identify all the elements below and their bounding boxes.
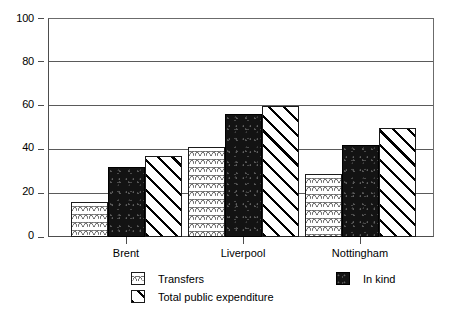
y-tick-mark-60 [38, 105, 44, 106]
y-tick-mark-80 [38, 61, 44, 62]
y-tick-label-100: 100 [16, 13, 34, 24]
y-axis: 100 80 60 40 20 0 [0, 0, 48, 327]
bar-liverpool-total-public-expenditure [262, 106, 299, 237]
x-label-nottingham: Nottingham [332, 247, 388, 259]
legend-label-in-kind: In kind [363, 273, 395, 285]
y-tick-mark-100 [38, 18, 44, 19]
legend-label-total-public-expenditure: Total public expenditure [158, 291, 274, 303]
bar-liverpool-transfers [188, 147, 225, 237]
bar-nottingham-transfers [305, 174, 342, 238]
x-axis: Brent Liverpool Nottingham [48, 237, 434, 267]
x-tick-mark-brent [126, 237, 127, 244]
legend-item-total-public-expenditure: Total public expenditure [131, 290, 274, 303]
y-tick-label-80: 80 [22, 56, 34, 67]
bar-nottingham-total-public-expenditure [379, 128, 416, 238]
bar-group-nottingham [305, 18, 415, 237]
fish-scale-swatch-icon [131, 272, 145, 285]
y-tick-label-40: 40 [22, 142, 34, 153]
x-label-brent: Brent [113, 247, 139, 259]
y-tick-mark-0 [38, 237, 44, 238]
bar-group-brent [71, 18, 181, 237]
diagonal-hatch-swatch-icon [131, 290, 145, 303]
bar-brent-in-kind [108, 167, 145, 237]
x-label-liverpool: Liverpool [221, 247, 266, 259]
solid-black-swatch-icon [336, 272, 350, 285]
x-tick-mark-liverpool [243, 237, 244, 244]
bar-nottingham-in-kind [342, 145, 379, 237]
chart-legend: Transfers In kind Total public expenditu… [131, 272, 431, 312]
bar-brent-total-public-expenditure [145, 156, 182, 237]
y-tick-label-60: 60 [22, 99, 34, 110]
x-tick-mark-nottingham [360, 237, 361, 244]
bar-brent-transfers [71, 202, 108, 237]
bars-layer [48, 18, 434, 237]
y-tick-mark-40 [38, 149, 44, 150]
legend-item-transfers: Transfers [131, 272, 204, 285]
y-tick-label-20: 20 [22, 186, 34, 197]
y-tick-label-0: 0 [28, 230, 34, 241]
legend-label-transfers: Transfers [158, 273, 204, 285]
bar-chart: 100 80 60 40 20 0 [0, 0, 458, 327]
y-tick-mark-20 [38, 193, 44, 194]
legend-item-in-kind: In kind [336, 272, 395, 285]
bar-liverpool-in-kind [225, 114, 262, 237]
bar-group-liverpool [188, 18, 298, 237]
